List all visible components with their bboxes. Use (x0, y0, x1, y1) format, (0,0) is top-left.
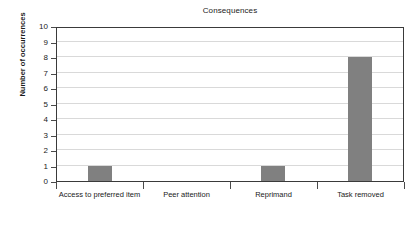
y-axis-ticks: 109876543210 (0, 27, 56, 182)
y-axis-tick-label: 6 (44, 83, 48, 94)
bar-slot (57, 28, 144, 181)
x-axis-tick-mark (143, 182, 144, 189)
y-axis-tick-label: 10 (39, 21, 48, 32)
y-axis-tick-label: 9 (44, 37, 48, 48)
bar[interactable] (261, 166, 285, 182)
bar-series (57, 28, 403, 181)
y-axis-tick-label: 8 (44, 52, 48, 63)
x-axis: Access to preferred itemPeer attentionRe… (56, 182, 404, 227)
x-axis-tick-mark (56, 182, 57, 189)
x-axis-tick-label: Peer attention (143, 190, 230, 200)
x-axis-tick-label: Task removed (317, 190, 404, 200)
plot-area (56, 27, 404, 182)
x-axis-tick-mark (317, 182, 318, 189)
y-axis-tick-label: 7 (44, 68, 48, 79)
x-axis-labels: Access to preferred itemPeer attentionRe… (56, 190, 404, 200)
bar[interactable] (88, 166, 112, 182)
x-axis-tick-mark (230, 182, 231, 189)
x-axis-tick-marks (56, 182, 404, 189)
y-axis-tick-label: 5 (44, 99, 48, 110)
bar[interactable] (348, 57, 372, 181)
y-axis-tick-label: 0 (44, 176, 48, 187)
chart-title: Consequences (56, 6, 404, 15)
x-axis-tick-label: Access to preferred item (56, 190, 143, 200)
bar-chart: Consequences Number of occurrences 10987… (0, 0, 416, 227)
y-axis-tick-label: 4 (44, 114, 48, 125)
x-axis-tick-label: Reprimand (230, 190, 317, 200)
y-axis-tick-label: 1 (44, 161, 48, 172)
y-axis-tick-label: 2 (44, 145, 48, 156)
x-axis-tick-mark (404, 182, 405, 189)
bar-slot (230, 28, 317, 181)
y-axis-tick-label: 3 (44, 130, 48, 141)
bar-slot (144, 28, 231, 181)
bar-slot (317, 28, 404, 181)
